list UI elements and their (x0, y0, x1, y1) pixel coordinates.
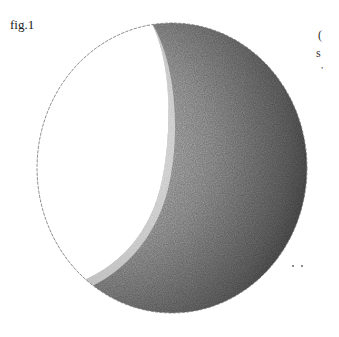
sphere-illustration (0, 0, 339, 337)
